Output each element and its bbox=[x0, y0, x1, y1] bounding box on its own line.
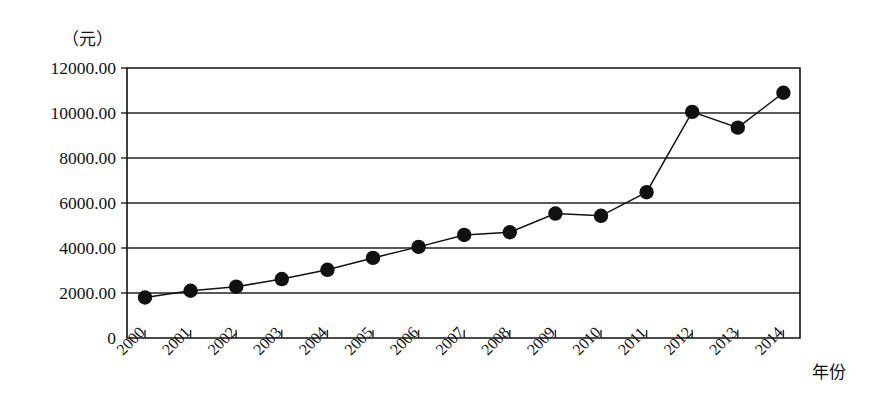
data-point-marker bbox=[639, 185, 653, 199]
line-chart: （元） 02000.004000.006000.008000.0010000.0… bbox=[0, 0, 881, 411]
data-point-marker bbox=[229, 280, 243, 294]
data-point-marker bbox=[503, 225, 517, 239]
data-point-marker bbox=[731, 120, 745, 134]
data-point-marker bbox=[183, 284, 197, 298]
y-axis-tick-label: 12000.00 bbox=[50, 58, 116, 78]
y-axis-tick-label: 6000.00 bbox=[59, 193, 116, 213]
y-axis-tick-label: 10000.00 bbox=[50, 103, 116, 123]
data-point-marker bbox=[138, 290, 152, 304]
data-point-marker bbox=[685, 105, 699, 119]
data-point-marker bbox=[776, 86, 790, 100]
data-point-marker bbox=[594, 209, 608, 223]
y-axis-unit-label: （元） bbox=[62, 30, 113, 49]
data-point-marker bbox=[548, 206, 562, 220]
data-point-marker bbox=[366, 251, 380, 265]
x-axis-title: 年份 bbox=[812, 363, 846, 382]
y-axis-tick-label: 8000.00 bbox=[59, 148, 116, 168]
data-point-marker bbox=[275, 272, 289, 286]
data-point-marker bbox=[457, 228, 471, 242]
y-axis-tick-label: 4000.00 bbox=[59, 238, 116, 258]
chart-container: （元） 02000.004000.006000.008000.0010000.0… bbox=[0, 0, 881, 411]
data-point-marker bbox=[320, 263, 334, 277]
data-point-marker bbox=[411, 240, 425, 254]
y-axis-tick-label: 2000.00 bbox=[59, 283, 116, 303]
